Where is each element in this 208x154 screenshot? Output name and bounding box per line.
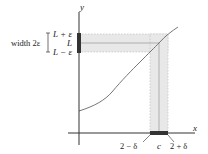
y-axis-label: y xyxy=(79,2,84,12)
x-axis-label: x xyxy=(192,123,197,133)
width-bracket-icon xyxy=(46,33,50,52)
epsilon-delta-diagram: y x L + ε L L − ε width 2ε 2 − δ c 2 + δ xyxy=(0,0,208,154)
y-interval-mark xyxy=(77,33,81,53)
width-label: width 2ε xyxy=(11,38,41,48)
left-delta-label: 2 − δ xyxy=(120,141,137,151)
c-label: c xyxy=(157,141,161,151)
x-interval-mark xyxy=(150,131,168,135)
left-leader-line xyxy=(143,135,150,142)
right-delta-label: 2 + δ xyxy=(170,141,187,151)
lower-bound-label: L − ε xyxy=(52,47,72,57)
